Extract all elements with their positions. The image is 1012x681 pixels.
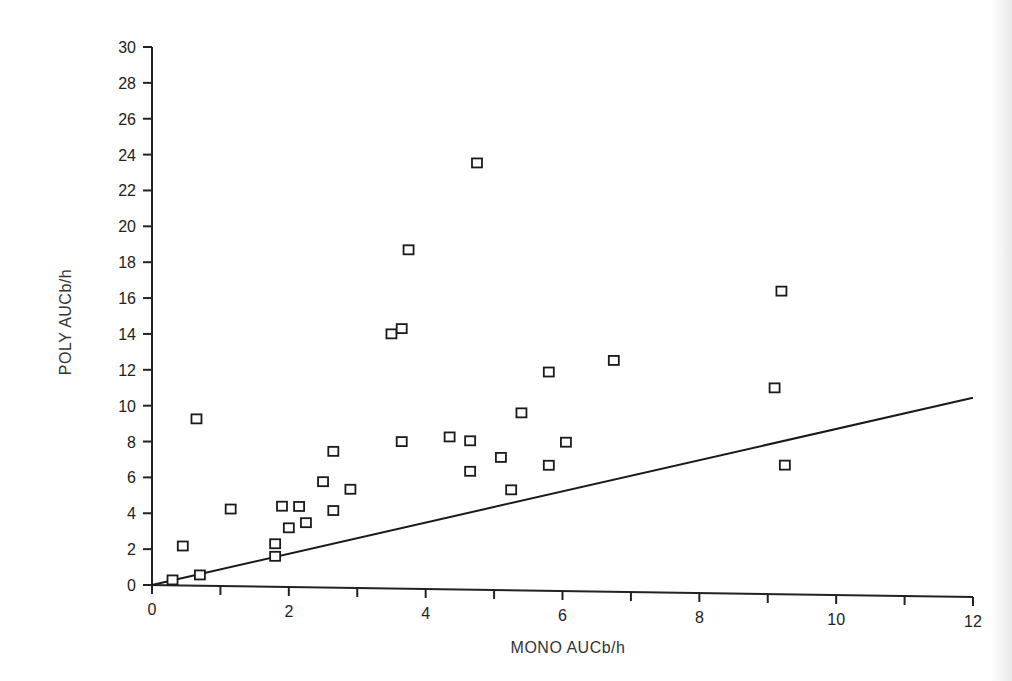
data-point-square bbox=[397, 437, 407, 446]
data-point-square bbox=[496, 453, 506, 462]
data-point-square bbox=[544, 368, 554, 377]
y-tick-label: 28 bbox=[118, 75, 136, 92]
data-point-square bbox=[397, 324, 407, 333]
data-point-square bbox=[345, 485, 355, 494]
data-point-square bbox=[516, 408, 526, 417]
x-axis: 024681012 bbox=[148, 585, 982, 630]
scatter-chart: 024681012141618202224262830 024681012 MO… bbox=[0, 0, 1012, 681]
y-tick-label: 6 bbox=[127, 469, 136, 486]
data-point-square bbox=[277, 502, 287, 511]
data-point-square bbox=[191, 414, 201, 423]
x-tick-label: 4 bbox=[421, 605, 430, 622]
data-point-square bbox=[780, 461, 790, 470]
data-point-square bbox=[386, 329, 396, 338]
data-point-square bbox=[318, 477, 328, 486]
data-point-square bbox=[770, 383, 780, 392]
x-axis-title: MONO AUCb/h bbox=[511, 639, 626, 656]
data-point-square bbox=[178, 541, 188, 550]
y-tick-label: 20 bbox=[118, 218, 136, 235]
x-tick-label: 2 bbox=[284, 603, 293, 620]
data-point-square bbox=[472, 158, 482, 167]
y-tick-label: 10 bbox=[118, 398, 136, 415]
data-point-square bbox=[294, 502, 304, 511]
y-tick-label: 24 bbox=[118, 147, 136, 164]
data-point-square bbox=[328, 447, 338, 456]
y-axis-title: POLY AUCb/h bbox=[57, 269, 74, 375]
y-axis: 024681012141618202224262830 bbox=[118, 39, 152, 594]
data-point-square bbox=[328, 506, 338, 515]
data-point-square bbox=[445, 432, 455, 441]
data-point-square bbox=[561, 438, 571, 447]
data-point-square bbox=[609, 356, 619, 365]
x-tick-label: 6 bbox=[558, 607, 567, 624]
y-tick-label: 14 bbox=[118, 326, 136, 343]
data-point-square bbox=[270, 552, 280, 561]
data-point-square bbox=[226, 505, 236, 514]
y-tick-label: 8 bbox=[127, 434, 136, 451]
y-tick-label: 2 bbox=[127, 541, 136, 558]
data-point-square bbox=[168, 575, 178, 584]
x-tick-label: 10 bbox=[827, 611, 845, 628]
y-tick-label: 18 bbox=[118, 254, 136, 271]
x-tick-label: 12 bbox=[964, 613, 982, 630]
data-point-square bbox=[195, 570, 205, 579]
x-tick-label: 0 bbox=[148, 601, 157, 618]
y-tick-label: 22 bbox=[118, 182, 136, 199]
data-point-square bbox=[284, 523, 294, 532]
y-tick-label: 26 bbox=[118, 111, 136, 128]
data-point-square bbox=[506, 485, 516, 494]
x-tick-label: 8 bbox=[695, 609, 704, 626]
data-point-square bbox=[465, 436, 475, 445]
data-point-square bbox=[776, 287, 786, 296]
data-point-square bbox=[544, 461, 554, 470]
data-points bbox=[168, 158, 790, 584]
data-point-square bbox=[301, 518, 311, 527]
y-tick-label: 12 bbox=[118, 362, 136, 379]
y-tick-label: 0 bbox=[127, 577, 136, 594]
data-point-square bbox=[404, 245, 414, 254]
y-tick-label: 30 bbox=[118, 39, 136, 56]
x-axis-line bbox=[148, 585, 973, 597]
y-tick-label: 16 bbox=[118, 290, 136, 307]
scan-edge-shadow bbox=[990, 0, 1012, 681]
y-tick-label: 4 bbox=[127, 505, 136, 522]
data-point-square bbox=[465, 467, 475, 476]
data-point-square bbox=[270, 539, 280, 548]
